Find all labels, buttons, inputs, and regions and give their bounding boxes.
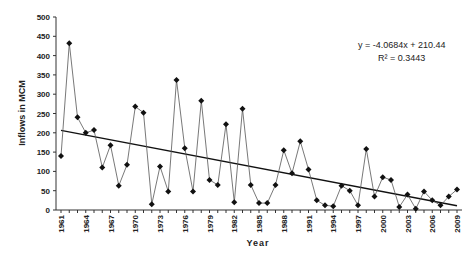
data-point-marker [165, 188, 171, 194]
data-point-marker [207, 177, 213, 183]
data-point-marker [413, 206, 419, 212]
x-tick-label: 2000 [379, 214, 388, 232]
x-axis: 1961196419671970197319761979198219851988… [56, 210, 462, 233]
r-squared: R² = 0.3443 [378, 53, 425, 63]
data-point-marker [198, 98, 204, 104]
data-point-marker [264, 200, 270, 206]
x-tick-label: 2009 [453, 214, 462, 232]
y-tick-label: 100 [37, 167, 51, 176]
y-axis-title: Inflows in MCM [17, 80, 27, 146]
data-point-marker [182, 145, 188, 151]
data-point-marker [58, 153, 64, 159]
data-point-marker [132, 104, 138, 110]
data-point-marker [240, 106, 246, 112]
x-tick-label: 1985 [255, 214, 264, 232]
y-tick-label: 200 [37, 129, 51, 138]
data-point-marker [355, 202, 361, 208]
y-tick-label: 150 [37, 148, 51, 157]
x-tick-label: 1979 [206, 214, 215, 232]
data-point-marker [108, 142, 114, 148]
x-tick-label: 1970 [131, 214, 140, 232]
data-point-marker [380, 174, 386, 180]
x-tick-label: 1991 [305, 214, 314, 232]
data-point-marker [91, 127, 97, 133]
data-point-marker [281, 147, 287, 153]
data-point-marker [149, 201, 155, 207]
x-tick-label: 2006 [428, 214, 437, 232]
data-point-marker [372, 193, 378, 199]
y-tick-label: 50 [41, 187, 50, 196]
data-point-marker [66, 40, 72, 46]
x-tick-label: 1982 [230, 214, 239, 232]
x-tick-label: 1961 [57, 214, 66, 232]
y-tick-label: 400 [37, 52, 51, 61]
inflow-series [58, 40, 460, 212]
data-point-marker [289, 170, 295, 176]
x-tick-label: 1967 [107, 214, 116, 232]
x-tick-label: 1994 [329, 214, 338, 232]
data-point-marker [141, 110, 147, 116]
data-point-marker [314, 197, 320, 203]
x-tick-label: 1988 [280, 214, 289, 232]
data-point-marker [363, 146, 369, 152]
data-point-marker [248, 182, 254, 188]
data-point-marker [174, 77, 180, 83]
data-point-marker [75, 114, 81, 120]
x-tick-label: 1973 [156, 214, 165, 232]
trend-equation: y = -4.0684x + 210.44 [358, 40, 446, 50]
x-tick-label: 1976 [181, 214, 190, 232]
data-point-marker [124, 162, 130, 168]
x-axis-title: Year [246, 238, 269, 248]
data-point-marker [297, 138, 303, 144]
data-point-marker [215, 182, 221, 188]
data-point-marker [231, 199, 237, 205]
inflow-chart: 050100150200250300350400450500 196119641… [0, 0, 474, 258]
data-point-marker [322, 202, 328, 208]
y-tick-label: 450 [37, 32, 51, 41]
data-point-marker [256, 200, 262, 206]
data-point-marker [157, 163, 163, 169]
y-tick-label: 300 [37, 90, 51, 99]
x-tick-label: 1997 [354, 214, 363, 232]
trendline [61, 130, 457, 205]
x-tick-label: 2003 [404, 214, 413, 232]
data-point-marker [223, 121, 229, 127]
data-point-marker [190, 188, 196, 194]
data-point-marker [388, 177, 394, 183]
y-tick-label: 0 [46, 206, 51, 215]
data-point-marker [273, 182, 279, 188]
data-point-marker [306, 166, 312, 172]
data-point-marker [347, 188, 353, 194]
data-point-marker [99, 165, 105, 171]
data-point-marker [396, 204, 402, 210]
data-point-marker [330, 203, 336, 209]
y-tick-label: 500 [37, 13, 51, 22]
y-tick-label: 350 [37, 71, 51, 80]
x-tick-label: 1964 [82, 214, 91, 232]
y-axis: 050100150200250300350400450500 [37, 13, 56, 215]
data-point-marker [116, 183, 122, 189]
y-tick-label: 250 [37, 110, 51, 119]
